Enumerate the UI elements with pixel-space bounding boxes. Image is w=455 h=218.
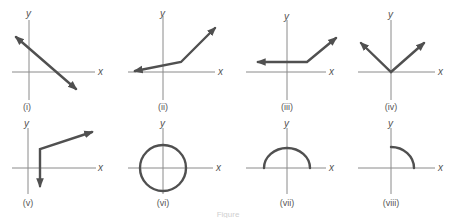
graph-line xyxy=(135,28,215,71)
x-axis-label: x xyxy=(328,66,335,77)
y-axis-label: y xyxy=(387,9,394,20)
y-axis-label: y xyxy=(159,118,166,129)
graph-quarter-circle xyxy=(391,147,414,168)
figure-graphs: x y (i) x y (ii) x y (iii) x y (iv) x y xyxy=(0,0,455,218)
panel-label: (v) xyxy=(23,198,34,208)
panel-iii: x y (iii) xyxy=(246,11,336,112)
x-axis-label: x xyxy=(97,162,104,173)
panel-v: x y (v) xyxy=(12,118,104,208)
panel-label: (vi) xyxy=(157,198,170,208)
x-axis-label: x xyxy=(437,66,444,77)
panel-label: (iii) xyxy=(281,102,293,112)
panel-label: (iv) xyxy=(385,102,398,112)
panel-vi: x y (vi) xyxy=(128,118,222,208)
panel-i: x y (i) xyxy=(12,8,104,112)
y-axis-label: y xyxy=(159,8,166,19)
panel-label: (ii) xyxy=(158,102,168,112)
x-axis-label: x xyxy=(215,162,222,173)
x-axis-label: x xyxy=(328,162,335,173)
y-axis-label: y xyxy=(283,118,290,129)
y-axis-label: y xyxy=(387,118,394,129)
graph-line xyxy=(258,38,336,62)
graph-line xyxy=(361,43,424,72)
x-axis-label: x xyxy=(97,66,104,77)
panel-viii: x y (viii) xyxy=(358,118,444,208)
panel-iv: x y (iv) xyxy=(358,9,444,112)
x-axis-label: x xyxy=(437,162,444,173)
panel-vii: x y (vii) xyxy=(246,118,335,208)
x-axis-label: x xyxy=(217,66,224,77)
panel-label: (vii) xyxy=(280,198,295,208)
graph-line xyxy=(40,132,92,186)
graph-line xyxy=(16,37,76,89)
y-axis-label: y xyxy=(283,11,290,22)
panel-label: (viii) xyxy=(383,198,400,208)
y-axis-label: y xyxy=(25,8,32,19)
y-axis-label: y xyxy=(23,118,30,129)
figure-caption: Figure xyxy=(217,210,240,218)
panel-label: (i) xyxy=(23,102,31,112)
panel-ii: x y (ii) xyxy=(128,8,224,112)
